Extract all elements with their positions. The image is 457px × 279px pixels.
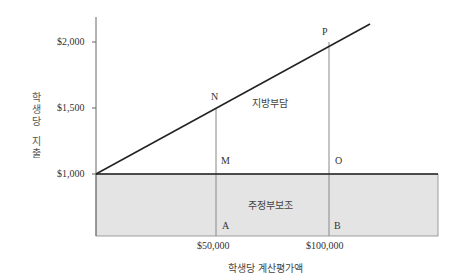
point-label-a: A bbox=[222, 220, 229, 231]
y-tick-label-1500: $1,500 bbox=[57, 102, 85, 113]
y-tick-label-2000: $2,000 bbox=[57, 36, 85, 47]
x-tick-label-100000: $100,000 bbox=[306, 240, 344, 251]
y-axis-label-char: 학 bbox=[30, 92, 42, 104]
point-label-o: O bbox=[335, 155, 342, 166]
point-label-p: P bbox=[322, 26, 328, 37]
region-label-state: 주정부보조 bbox=[248, 197, 293, 212]
point-label-n: N bbox=[211, 91, 218, 102]
x-tick-label-50000: $50,000 bbox=[197, 240, 230, 251]
x-axis-label: 학생당 계산평가액 bbox=[228, 260, 303, 275]
y-axis-label-char: 지 bbox=[30, 136, 42, 148]
y-axis-label-char: 생 bbox=[30, 104, 42, 116]
region-label-local: 지방부담 bbox=[252, 95, 288, 110]
point-label-b: B bbox=[334, 220, 341, 231]
y-tick-label-1000: $1,000 bbox=[57, 168, 85, 179]
y-axis-label-char: 출 bbox=[30, 148, 42, 160]
y-axis-label: 학 생 당 지 출 bbox=[30, 92, 42, 160]
point-label-m: M bbox=[221, 155, 230, 166]
y-axis-label-char: 당 bbox=[30, 116, 42, 128]
